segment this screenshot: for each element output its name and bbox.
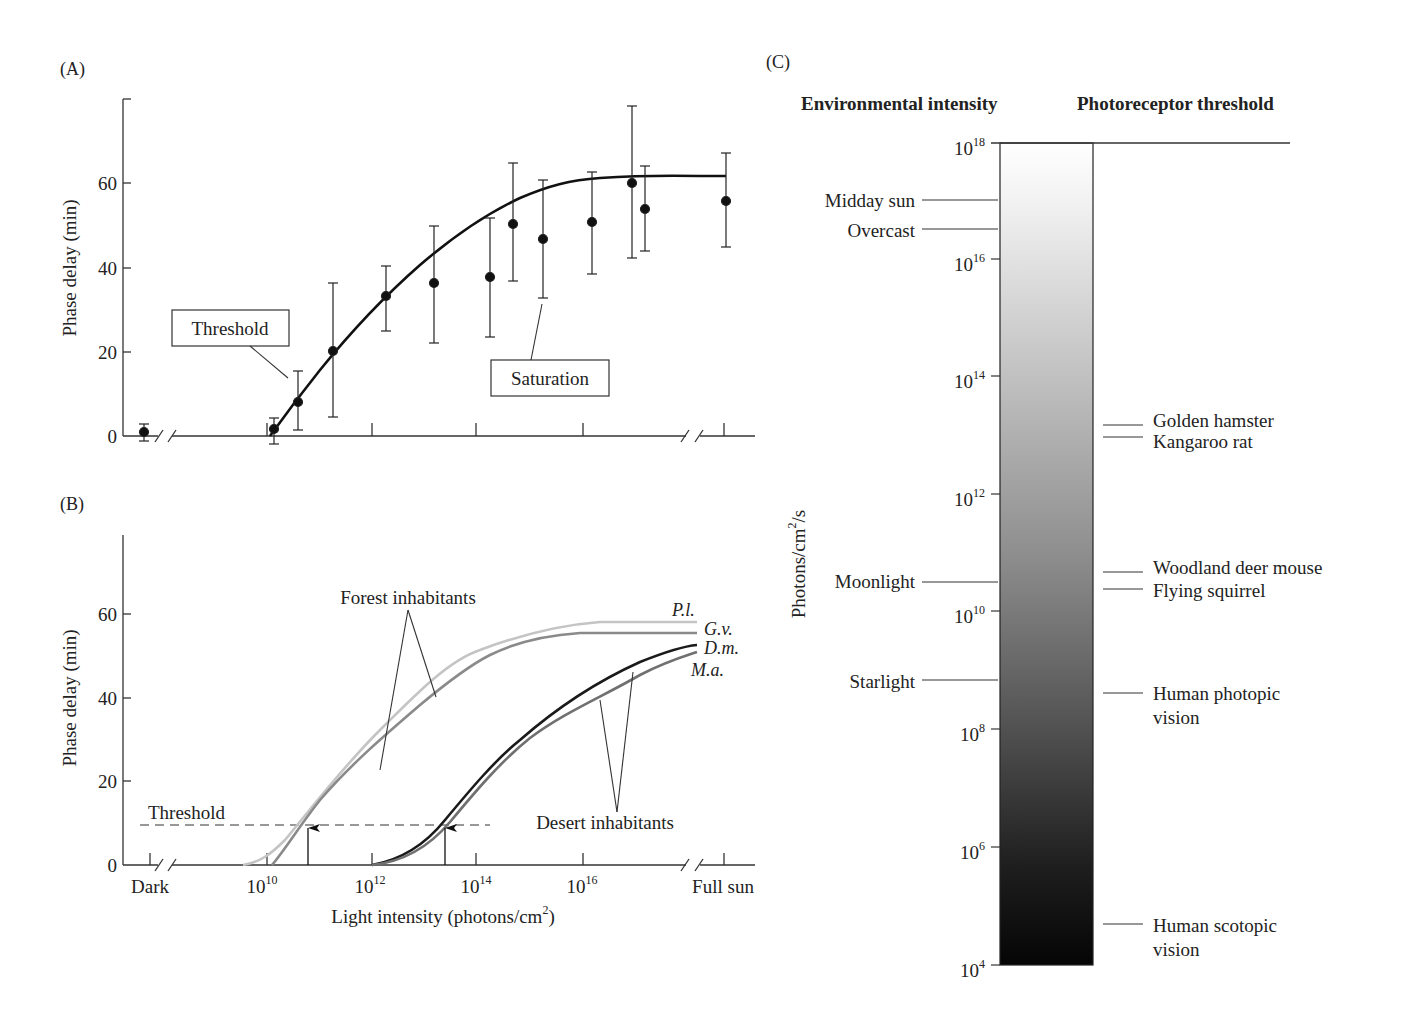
photoreceptor-labels: Golden hamster Kangaroo rat Woodland dee… — [1153, 410, 1322, 960]
panel-c-label: (C) — [766, 52, 790, 73]
desert-label: Desert inhabitants — [536, 812, 674, 833]
panel-a: (A) 0 20 40 60 Phase delay (min) — [59, 59, 755, 447]
svg-text:1018: 1018 — [954, 135, 985, 159]
svg-text:Full sun: Full sun — [692, 876, 754, 897]
svg-text:Human photopic: Human photopic — [1153, 683, 1280, 704]
environmental-labels: Midday sun Overcast Moonlight Starlight — [825, 190, 916, 692]
panel-b-x-label: Light intensity (photons/cm2) — [331, 903, 554, 928]
data-point — [381, 266, 391, 331]
forest-pointer — [380, 610, 436, 770]
data-point — [538, 180, 548, 298]
svg-text:0: 0 — [108, 855, 118, 876]
svg-text:1016: 1016 — [567, 873, 598, 897]
svg-text:G.v.: G.v. — [704, 619, 733, 639]
svg-text:104: 104 — [960, 957, 985, 981]
svg-text:Flying squirrel: Flying squirrel — [1153, 580, 1265, 601]
panel-b: (B) 0 20 40 60 Phase delay (min) — [59, 494, 755, 928]
svg-text:1016: 1016 — [954, 251, 985, 275]
svg-text:Woodland deer mouse: Woodland deer mouse — [1153, 557, 1322, 578]
svg-text:108: 108 — [960, 721, 985, 745]
data-point — [627, 106, 637, 258]
panel-a-data-points — [139, 106, 731, 444]
svg-text:20: 20 — [98, 771, 117, 792]
svg-text:vision: vision — [1153, 707, 1200, 728]
svg-text:60: 60 — [98, 604, 117, 625]
svg-text:Moonlight: Moonlight — [835, 571, 916, 592]
saturation-annotation: Saturation — [491, 304, 609, 396]
svg-text:40: 40 — [98, 258, 117, 279]
svg-text:1014: 1014 — [954, 368, 985, 392]
data-point — [269, 418, 279, 444]
data-point — [587, 172, 597, 274]
panel-b-y-label: Phase delay (min) — [59, 629, 81, 766]
panel-a-y-label: Phase delay (min) — [59, 199, 81, 336]
svg-text:40: 40 — [98, 688, 117, 709]
svg-text:M.a.: M.a. — [690, 660, 724, 680]
svg-text:Saturation: Saturation — [511, 368, 590, 389]
panel-a-label: (A) — [60, 59, 85, 80]
svg-text:1014: 1014 — [461, 873, 492, 897]
photoreceptor-markers — [1103, 425, 1143, 924]
panel-a-y-tick-labels: 0 20 40 60 — [98, 173, 117, 447]
data-point — [293, 371, 303, 430]
panel-b-y-axis — [123, 535, 131, 865]
svg-text:1010: 1010 — [954, 603, 985, 627]
data-point-full-sun — [721, 153, 731, 247]
svg-text:Starlight: Starlight — [850, 671, 916, 692]
data-point — [508, 163, 518, 281]
svg-text:Human scotopic: Human scotopic — [1153, 915, 1277, 936]
panel-c-y-label: Photons/cm2/s — [785, 510, 809, 618]
forest-label: Forest inhabitants — [340, 587, 476, 608]
svg-text:20: 20 — [98, 342, 117, 363]
svg-text:Midday sun: Midday sun — [825, 190, 916, 211]
svg-text:106: 106 — [960, 839, 985, 863]
panel-c-tick-labels: 1018 1016 1014 1012 1010 108 106 104 — [954, 135, 985, 981]
svg-text:1012: 1012 — [954, 486, 985, 510]
threshold-label: Threshold — [148, 802, 226, 823]
panel-c: (C) Environmental intensity Photorecepto… — [766, 52, 1322, 981]
panel-a-x-axis — [123, 423, 755, 442]
curve-ma — [372, 652, 697, 865]
panel-a-fit-curve — [270, 176, 726, 436]
svg-text:P.l.: P.l. — [671, 600, 695, 620]
svg-text:Threshold: Threshold — [191, 318, 269, 339]
data-point-dark — [139, 424, 149, 441]
svg-text:Overcast: Overcast — [847, 220, 915, 241]
data-point — [429, 226, 439, 343]
svg-text:Golden hamster: Golden hamster — [1153, 410, 1275, 431]
data-point — [485, 218, 495, 337]
panel-a-y-axis — [123, 99, 131, 436]
photoreceptor-header: Photoreceptor threshold — [1077, 93, 1274, 114]
threshold-annotation: Threshold — [172, 310, 289, 378]
svg-text:D.m.: D.m. — [703, 638, 739, 658]
panel-b-y-tick-labels: 0 20 40 60 — [98, 604, 117, 876]
svg-text:Kangaroo rat: Kangaroo rat — [1153, 431, 1253, 452]
panel-b-label: (B) — [60, 494, 84, 515]
species-labels: P.l. G.v. D.m. M.a. — [671, 600, 739, 680]
environmental-header: Environmental intensity — [801, 93, 998, 114]
svg-text:60: 60 — [98, 173, 117, 194]
svg-text:1010: 1010 — [247, 873, 278, 897]
svg-text:1012: 1012 — [355, 873, 386, 897]
svg-text:Dark: Dark — [131, 876, 169, 897]
intensity-gradient-bar — [1000, 143, 1093, 965]
svg-text:vision: vision — [1153, 939, 1200, 960]
data-point — [640, 166, 650, 251]
panel-b-x-tick-labels: Dark 1010 1012 1014 1016 Full sun — [131, 873, 754, 897]
figure: (A) 0 20 40 60 Phase delay (min) — [0, 0, 1409, 1029]
data-point — [328, 283, 338, 417]
panel-c-ticks — [991, 259, 1000, 965]
svg-text:0: 0 — [108, 426, 118, 447]
panel-b-x-axis — [123, 853, 755, 871]
